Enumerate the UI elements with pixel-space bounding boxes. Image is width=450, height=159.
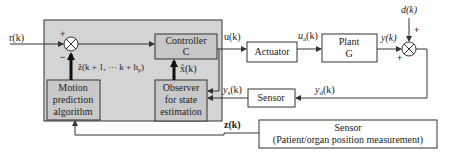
sensor-feedback-label: Sensor <box>257 92 285 103</box>
controller-label: Controller <box>165 35 207 46</box>
plant-symbol: G <box>345 48 352 59</box>
signal-label-y: y(k) <box>380 32 397 44</box>
sum2-top-plus-sign: + <box>414 25 419 35</box>
block-plant: Plant G <box>322 34 377 62</box>
controller-symbol: C <box>183 46 190 57</box>
observer-label-line1: Observer <box>163 82 200 93</box>
signal-label-r: r(k) <box>9 32 24 44</box>
block-controller: Controller C <box>155 34 217 59</box>
sum2-left-plus-sign: + <box>397 53 402 63</box>
signal-label-zhat: ẑ(k + 1, ··· k + hp) <box>78 62 144 73</box>
motion-prediction-line1: Motion <box>58 82 87 93</box>
block-actuator: Actuator <box>247 42 297 62</box>
summing-junction-2 <box>402 42 416 56</box>
signal-label-yd: yd(k) <box>314 84 335 97</box>
sensor-patient-label-line2: (Patient/organ position measurement) <box>273 134 423 146</box>
block-sensor-feedback: Sensor <box>248 89 295 107</box>
observer-label-line2: for state <box>165 94 198 105</box>
signal-label-ua: ua(k) <box>298 30 318 43</box>
sum1-plus-sign: + <box>60 29 65 39</box>
control-block-diagram: r(k) + − Controller C u(k) Actuator ua(k… <box>0 0 450 159</box>
block-observer: Observer for state estimation <box>155 80 207 121</box>
observer-label-line3: estimation <box>160 106 202 117</box>
motion-prediction-line3: algorithm <box>54 106 93 117</box>
sum1-minus-sign: − <box>60 52 65 62</box>
sensor-patient-label-line1: Sensor <box>334 122 362 133</box>
summing-junction-1 <box>64 37 78 51</box>
actuator-label: Actuator <box>255 46 291 57</box>
signal-label-z: z(k) <box>224 119 241 131</box>
block-sensor-patient: Sensor (Patient/organ position measureme… <box>259 120 437 148</box>
signal-label-xhat: x̂(k) <box>180 63 197 75</box>
signal-label-ys: ys(k) <box>222 84 242 97</box>
signal-label-d: d(k) <box>401 4 418 16</box>
block-motion-prediction: Motion prediction algorithm <box>47 80 100 120</box>
plant-label: Plant <box>339 36 360 47</box>
signal-label-u: u(k) <box>224 31 241 43</box>
motion-prediction-line2: prediction <box>53 94 94 105</box>
